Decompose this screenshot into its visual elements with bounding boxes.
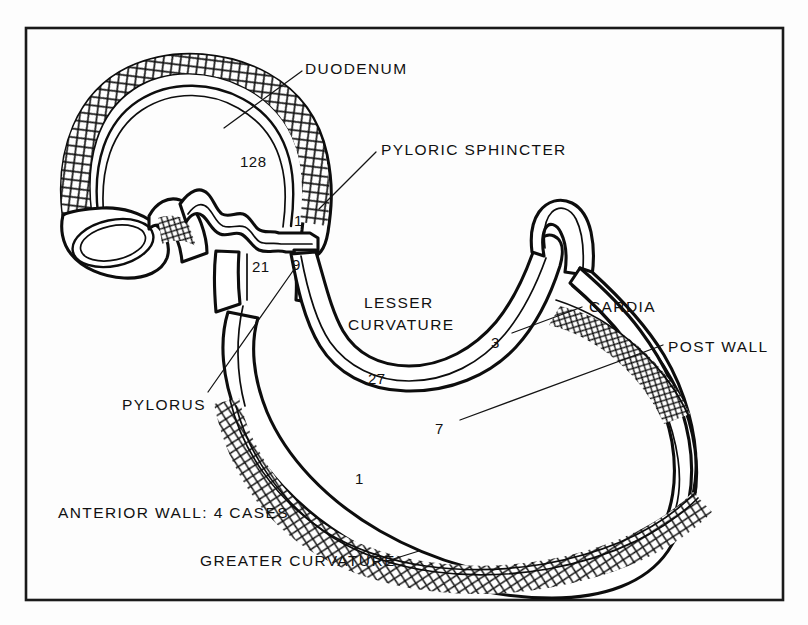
label-lesser-curvature-line2: CURVATURE xyxy=(348,316,454,333)
label-anterior-wall-note: ANTERIOR WALL: 4 CASES xyxy=(58,504,289,521)
count-lesser-curvature: 27 xyxy=(368,370,386,387)
label-greater-curvature: GREATER CURVATURE xyxy=(200,552,396,569)
label-cardia: CARDIA xyxy=(589,298,656,315)
label-post-wall: POST WALL xyxy=(668,338,768,355)
stomach-duodenum-diagram: DUODENUM PYLORIC SPHINCTER PYLORUS LESSE… xyxy=(0,0,808,625)
label-duodenum: DUODENUM xyxy=(305,60,407,77)
count-post-wall: 7 xyxy=(435,420,444,437)
count-greater-curvature: 1 xyxy=(355,470,364,487)
label-group: DUODENUM PYLORIC SPHINCTER PYLORUS LESSE… xyxy=(58,60,768,569)
label-lesser-curvature-line1: LESSER xyxy=(364,294,434,311)
label-pyloric-sphincter: PYLORIC SPHINCTER xyxy=(381,141,567,158)
count-pylorus-right: 9 xyxy=(292,256,301,273)
count-pylorus-left: 21 xyxy=(252,258,270,275)
count-duodenum: 128 xyxy=(240,153,267,170)
figure-root: DUODENUM PYLORIC SPHINCTER PYLORUS LESSE… xyxy=(0,0,808,625)
label-pylorus: PYLORUS xyxy=(122,396,206,413)
stomach-body-shape xyxy=(200,200,740,610)
count-pyloric-sphincter: 1 xyxy=(294,212,303,229)
count-cardia: 3 xyxy=(491,334,500,351)
